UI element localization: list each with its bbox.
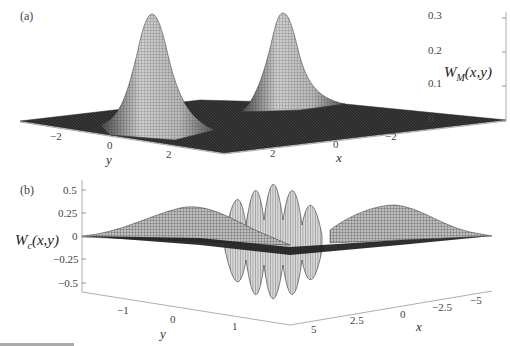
y-tick-b-0: −1: [117, 304, 129, 316]
x-axis-label-a: x: [336, 150, 342, 166]
z-tick-a-1: 0.2: [428, 44, 442, 56]
z-axis-title-a: WM(x,y): [444, 64, 492, 83]
panel-label-b: (b): [20, 183, 34, 198]
x-tick-b-3: −2.5: [432, 301, 452, 313]
x-axis-label-b: x: [416, 319, 422, 335]
z-tick-b-2: 0: [72, 230, 78, 242]
y-axis-label-b: y: [160, 326, 166, 342]
y-tick-a-2: 2: [166, 148, 172, 160]
panel-a: (a) 0.3 0.2 0.1 0 WM(x,y) −2 0 2 y 2 0 −…: [0, 0, 510, 175]
z-tick-a-2: 0.1: [428, 77, 442, 89]
y-tick-a-0: −2: [50, 130, 62, 142]
x-tick-a-1: 0: [333, 138, 339, 150]
x-tick-b-0: 5: [311, 323, 317, 335]
z-tick-a-3: 0: [428, 112, 434, 124]
x-tick-b-1: 2.5: [350, 314, 364, 326]
y-tick-b-1: 0: [170, 313, 176, 325]
z-tick-a-0: 0.3: [428, 9, 442, 21]
x-tick-b-4: −5: [470, 294, 482, 306]
x-tick-a-0: 2: [270, 147, 276, 159]
x-tick-b-2: 0: [400, 308, 406, 320]
z-tick-b-0: 0.5: [63, 184, 77, 196]
x-tick-a-2: −2: [385, 130, 397, 142]
panel-label-a: (a): [20, 9, 33, 24]
z-axis-title-b: Wc(x,y): [15, 232, 59, 251]
y-axis-label-a: y: [106, 152, 112, 168]
y-tick-b-2: 1: [232, 320, 238, 332]
panel-b: (b) 0.5 0.25 0 −0.25 −0.5 Wc(x,y) −1 0 1…: [0, 175, 510, 346]
z-tick-b-1: 0.25: [58, 207, 77, 219]
z-tick-b-3: −0.25: [53, 253, 78, 265]
z-tick-b-4: −0.5: [58, 277, 78, 289]
y-tick-a-1: 0: [107, 139, 113, 151]
